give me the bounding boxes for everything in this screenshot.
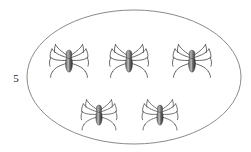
spider-1 [49,45,88,78]
group-ellipse [27,10,241,144]
figure-canvas: 5 [0,0,251,152]
spider-3 [172,45,211,78]
spider-2 [109,45,148,78]
counting-diagram: 5 [0,0,251,152]
count-label: 5 [13,72,19,84]
spider-5 [142,100,178,130]
spider-group [49,45,211,131]
spider-4 [81,100,117,130]
